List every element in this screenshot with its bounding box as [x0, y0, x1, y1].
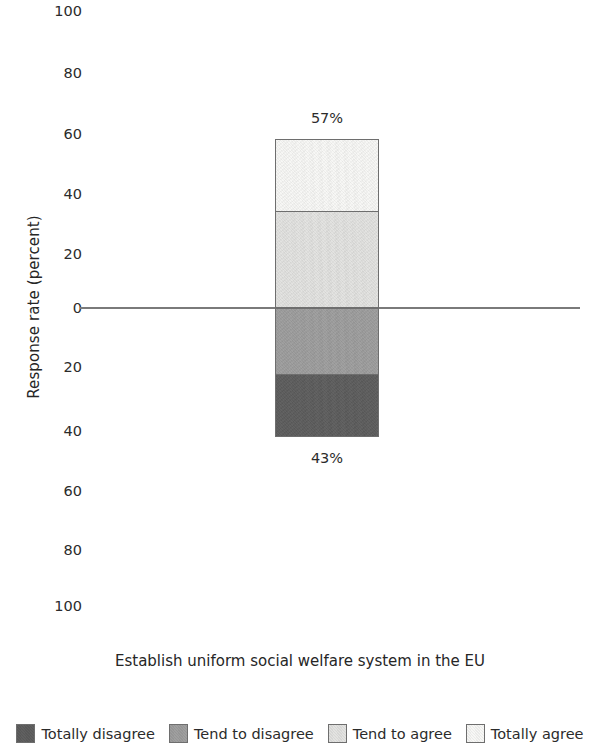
bar-segment-tend-to-agree[interactable]	[275, 211, 379, 308]
x-axis-title: Establish uniform social welfare system …	[0, 652, 600, 670]
y-tick-label: 80	[2, 66, 82, 80]
bar-segment-totally-disagree[interactable]	[275, 374, 379, 437]
y-tick-label: 20	[2, 247, 82, 261]
bar-value-label-bottom: 43%	[255, 450, 399, 466]
legend-swatch-icon	[16, 724, 35, 743]
legend-item-label: Totally disagree	[41, 726, 154, 742]
legend-swatch-icon	[328, 724, 347, 743]
bar-segment-tend-to-disagree[interactable]	[275, 308, 379, 375]
legend-item-totally-disagree[interactable]: Totally disagree	[16, 724, 154, 743]
legend-swatch-icon	[169, 724, 188, 743]
legend-item-tend-to-agree[interactable]: Tend to agree	[328, 724, 452, 743]
legend-item-label: Tend to agree	[353, 726, 452, 742]
plot-area: 57% 43%	[80, 0, 580, 620]
y-tick-label: 60	[2, 484, 82, 498]
legend-swatch-icon	[466, 724, 485, 743]
legend-item-totally-agree[interactable]: Totally agree	[466, 724, 584, 743]
chart-figure: Response rate (percent) 100 80 60 40 20 …	[0, 0, 600, 748]
y-tick-label: 40	[2, 187, 82, 201]
legend-item-label: Tend to disagree	[194, 726, 314, 742]
y-tick-label: 40	[2, 424, 82, 438]
stacked-bar-column	[275, 0, 379, 620]
y-tick-label: 100	[2, 4, 82, 18]
y-axis-tick-labels: 100 80 60 40 20 0 20 40 60 80 100	[0, 0, 92, 748]
y-tick-label: 0	[2, 301, 82, 315]
legend-item-label: Totally agree	[491, 726, 584, 742]
legend-item-tend-to-disagree[interactable]: Tend to disagree	[169, 724, 314, 743]
chart-legend: Totally disagree Tend to disagree Tend t…	[0, 724, 600, 743]
y-tick-label: 100	[2, 599, 82, 613]
y-tick-label: 80	[2, 543, 82, 557]
y-tick-label: 60	[2, 127, 82, 141]
bar-value-label-top: 57%	[255, 110, 399, 126]
y-tick-label: 20	[2, 360, 82, 374]
bar-segment-totally-agree[interactable]	[275, 139, 379, 212]
